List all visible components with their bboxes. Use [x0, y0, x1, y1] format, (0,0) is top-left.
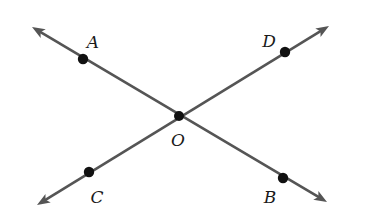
line-CD-arrow-end-icon	[315, 26, 329, 37]
label-A: A	[85, 32, 99, 52]
label-C: C	[90, 187, 103, 207]
intersecting-lines-diagram: A B C D O	[0, 0, 377, 222]
point-A	[78, 54, 88, 64]
label-O: O	[171, 130, 185, 150]
point-O	[174, 111, 184, 121]
label-B: B	[263, 187, 277, 207]
point-D	[280, 47, 290, 57]
line-CD-arrow-start-icon	[37, 194, 51, 205]
label-D: D	[261, 31, 276, 51]
point-B	[278, 173, 288, 183]
point-C	[84, 167, 94, 177]
